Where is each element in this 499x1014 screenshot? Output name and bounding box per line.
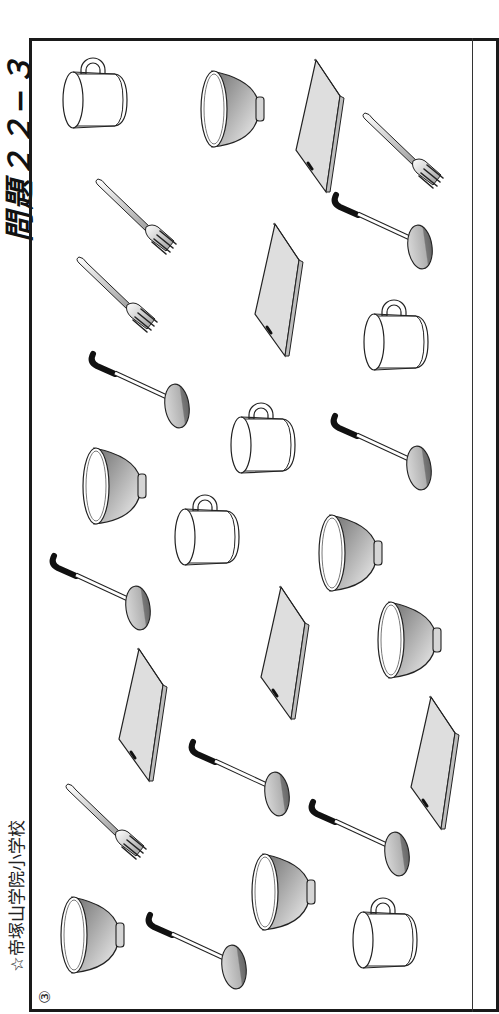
bowl-icon	[319, 515, 382, 591]
ladle-icon	[192, 742, 292, 817]
bowl-icon	[201, 71, 264, 147]
bowl-icon	[378, 602, 441, 678]
board-icon	[411, 697, 459, 829]
mug-icon	[364, 300, 428, 370]
items-layer	[53, 58, 459, 990]
ladle-icon	[334, 416, 434, 491]
mug-icon	[63, 58, 127, 128]
board-icon	[255, 224, 303, 356]
ladle-icon	[53, 556, 153, 631]
fork-icon	[66, 784, 146, 859]
ladle-icon	[335, 195, 435, 270]
bowl-icon	[83, 448, 146, 524]
ladle-icon	[312, 802, 412, 877]
board-icon	[296, 60, 344, 192]
bowl-icon	[61, 897, 124, 973]
ladle-icon	[92, 354, 192, 429]
board-icon	[119, 649, 167, 781]
bowl-icon	[252, 854, 315, 930]
mug-icon	[231, 403, 295, 473]
fork-icon	[77, 257, 157, 332]
mug-icon	[175, 495, 239, 565]
board-icon	[261, 587, 309, 719]
fork-icon	[96, 179, 176, 254]
fork-icon	[363, 113, 443, 188]
ladle-icon	[149, 915, 249, 990]
mug-icon	[353, 898, 417, 968]
